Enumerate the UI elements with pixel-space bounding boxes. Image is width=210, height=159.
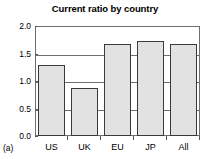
x-axis-label-jp: JP <box>134 142 167 152</box>
y-axis-tick-mark <box>35 136 38 137</box>
bar-eu <box>104 44 130 136</box>
y-axis-tick-label: 1.5 <box>5 50 31 59</box>
bar-us <box>38 65 64 137</box>
x-axis-label-eu: EU <box>101 142 134 152</box>
y-axis-tick-label: 0.5 <box>5 105 31 114</box>
bar-uk <box>71 88 97 136</box>
y-axis-tick-label: 1.0 <box>5 77 31 86</box>
chart-title: Current ratio by country <box>0 3 210 15</box>
panel-label: (a) <box>3 143 13 153</box>
y-axis-tick-mark <box>35 54 38 55</box>
y-axis-tick-label: 0.0 <box>5 132 31 141</box>
x-axis-tick-mark <box>67 136 68 140</box>
bar-series <box>35 26 200 136</box>
y-axis-tick-mark <box>35 109 38 110</box>
y-axis-tick-label: 2.0 <box>5 22 31 31</box>
x-axis-tick-mark <box>100 136 101 140</box>
y-axis-tick-mark <box>35 26 38 27</box>
y-axis-tick-mark <box>35 81 38 82</box>
bar-jp <box>137 41 163 136</box>
x-axis-tick-mark <box>133 136 134 140</box>
x-axis-label-us: US <box>35 142 68 152</box>
bar-all <box>170 44 196 136</box>
y-axis: 0.00.51.01.52.0 <box>0 26 31 136</box>
x-axis-label-all: All <box>167 142 200 152</box>
figure-panel: Current ratio by country 0.00.51.01.52.0… <box>0 0 210 159</box>
x-axis-tick-mark <box>166 136 167 140</box>
x-axis-tick-mark <box>199 136 200 140</box>
x-axis-label-uk: UK <box>68 142 101 152</box>
